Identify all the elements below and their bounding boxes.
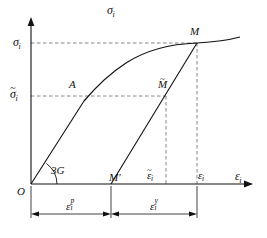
dimension-label-yield-strain: εyi (150, 197, 158, 212)
x-axis-label: εi (235, 170, 242, 185)
diagram-canvas (0, 0, 267, 238)
point-label-M-tilde: ~M (158, 79, 167, 90)
dimension-label-plastic-strain: εpi (66, 197, 74, 212)
y-axis-arrowhead (28, 17, 35, 26)
tick-label-eps-i-tilde: ~εi (147, 170, 153, 183)
tick-label-sigma-i: σi (13, 36, 21, 51)
hardening-curve-AM (84, 37, 240, 101)
x-axis-arrowhead (244, 181, 253, 188)
point-label-M: M (190, 26, 199, 37)
tick-label-sigma-i-tilde: ~σi (10, 88, 18, 103)
tick-label-eps-i: εi (198, 170, 204, 183)
y-axis-label: σi (107, 4, 115, 19)
origin-label: O (17, 186, 25, 197)
slope-annotation-3G: 3G (51, 165, 64, 176)
point-label-M-prime: M′ (109, 172, 121, 183)
stress-strain-diagram: σi σi ~σi A M ~M M′ O 3G ~εi εi εi εpi ε… (0, 0, 267, 238)
point-label-A: A (69, 79, 76, 90)
